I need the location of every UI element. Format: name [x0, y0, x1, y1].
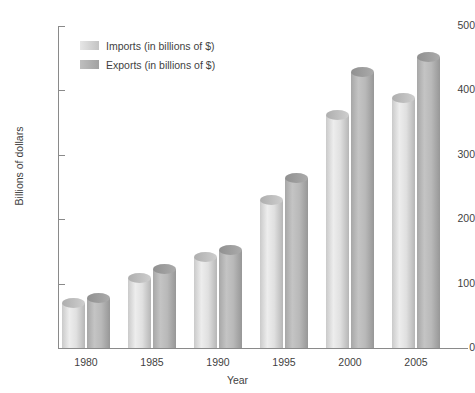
bar-exports-2005 — [417, 52, 440, 348]
bar-body — [87, 298, 110, 348]
bar-top-ellipse — [87, 293, 110, 303]
bar-body — [194, 257, 217, 348]
y-axis-tick — [58, 348, 65, 349]
x-axis-line — [58, 348, 468, 349]
bar-exports-2000 — [351, 67, 374, 348]
bar-exports-1985 — [153, 264, 176, 348]
bar-body — [351, 72, 374, 348]
x-axis-tick-label: 1995 — [252, 356, 316, 368]
x-axis-tick-label: 2005 — [384, 356, 448, 368]
bar-imports-2005 — [392, 93, 415, 348]
bar-top-ellipse — [285, 173, 308, 183]
bar-top-ellipse — [260, 195, 283, 205]
bar-exports-1995 — [285, 173, 308, 348]
bar-imports-1995 — [260, 195, 283, 348]
bar-chart: 0100200300400500 Billions of dollars 198… — [0, 0, 475, 393]
bar-body — [285, 178, 308, 348]
x-axis-tick-label: 2000 — [318, 356, 382, 368]
x-axis-tick-label: 1985 — [120, 356, 184, 368]
bar-top-ellipse — [62, 298, 85, 308]
bar-body — [153, 269, 176, 348]
x-axis-tick-label: 1980 — [54, 356, 118, 368]
bar-imports-1990 — [194, 252, 217, 348]
bar-body — [219, 250, 242, 348]
bar-body — [392, 98, 415, 348]
bar-body — [417, 57, 440, 348]
bar-imports-1985 — [128, 273, 151, 348]
bar-imports-2000 — [326, 110, 349, 348]
bar-body — [128, 278, 151, 348]
bar-imports-1980 — [62, 298, 85, 348]
bar-exports-1980 — [87, 293, 110, 348]
bars-layer — [0, 0, 475, 348]
bar-body — [260, 200, 283, 348]
bar-top-ellipse — [417, 52, 440, 62]
bar-body — [62, 303, 85, 348]
x-axis-tick-label: 1990 — [186, 356, 250, 368]
bar-top-ellipse — [326, 110, 349, 120]
x-axis-title: Year — [0, 374, 475, 386]
bar-body — [326, 115, 349, 348]
bar-exports-1990 — [219, 245, 242, 348]
